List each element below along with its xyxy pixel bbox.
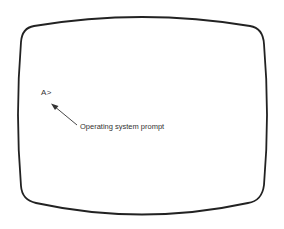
crt-screen-outline	[0, 0, 284, 229]
arrow-icon	[51, 104, 77, 126]
annotation-label: Operating system prompt	[80, 122, 164, 131]
os-prompt: A>	[41, 88, 52, 97]
